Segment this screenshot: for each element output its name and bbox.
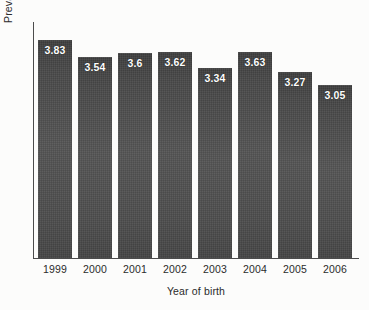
x-axis-tick-2006: 2006: [318, 263, 352, 275]
x-axis-label: Year of birth: [33, 285, 359, 297]
x-axis-tick-2004: 2004: [238, 263, 272, 275]
bar-chart-figure: Prevalence per 10,000 live births 3.833.…: [0, 0, 369, 310]
bar-value-label: 3.34: [198, 72, 232, 84]
bar-value-label: 3.63: [238, 56, 272, 68]
bar[interactable]: 3.54: [78, 57, 112, 258]
x-axis-tick-labels: 19992000200120022003200420052006: [38, 263, 358, 279]
bar-slot: 3.34: [198, 22, 232, 258]
bar-value-label: 3.27: [278, 76, 312, 88]
y-axis-label: Prevalence per 10,000 live births: [0, 0, 16, 60]
bar-value-label: 3.62: [158, 56, 192, 68]
plot-area: 3.833.543.63.623.343.633.273.05: [33, 22, 359, 259]
bar[interactable]: 3.27: [278, 72, 312, 258]
bar-slot: 3.63: [238, 22, 272, 258]
bar[interactable]: 3.6: [118, 53, 152, 258]
bar[interactable]: 3.83: [38, 40, 72, 258]
x-axis-tick-1999: 1999: [38, 263, 72, 275]
bar-slot: 3.83: [38, 22, 72, 258]
x-axis-tick-2002: 2002: [158, 263, 192, 275]
bar-value-label: 3.05: [318, 89, 352, 101]
bar-value-label: 3.54: [78, 61, 112, 73]
bar[interactable]: 3.63: [238, 52, 272, 258]
bar-slot: 3.27: [278, 22, 312, 258]
bar-slot: 3.6: [118, 22, 152, 258]
x-axis-tick-2001: 2001: [118, 263, 152, 275]
bar-slot: 3.05: [318, 22, 352, 258]
bar[interactable]: 3.34: [198, 68, 232, 258]
bar[interactable]: 3.62: [158, 52, 192, 258]
bar-slot: 3.54: [78, 22, 112, 258]
bar[interactable]: 3.05: [318, 85, 352, 258]
x-axis-tick-2005: 2005: [278, 263, 312, 275]
bar-group: 3.833.543.63.623.343.633.273.05: [38, 22, 358, 258]
x-axis-tick-2003: 2003: [198, 263, 232, 275]
x-axis-tick-2000: 2000: [78, 263, 112, 275]
y-axis-line: [33, 22, 34, 259]
bar-value-label: 3.6: [118, 57, 152, 69]
bar-slot: 3.62: [158, 22, 192, 258]
bar-value-label: 3.83: [38, 44, 72, 56]
